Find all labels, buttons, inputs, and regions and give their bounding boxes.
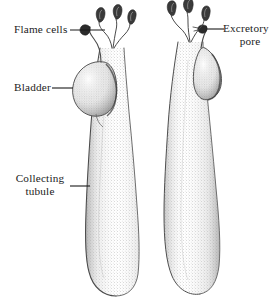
label-bladder: Bladder — [14, 81, 51, 94]
flame-cell-icon — [183, 0, 193, 13]
left-protonephridium — [73, 5, 139, 296]
label-collecting-tubule: Collecting tubule — [10, 172, 70, 198]
excretory-system-figure: Flame cells Bladder Collecting tubule Ex… — [0, 0, 279, 301]
flame-cell-icon — [96, 8, 105, 23]
flame-cell-icon — [167, 1, 176, 16]
label-excretory-pore-line1: Excretory — [223, 22, 269, 34]
label-collecting-tubule-line1: Collecting — [16, 172, 65, 184]
flame-cell-icon — [202, 6, 210, 21]
bladder-right — [193, 48, 221, 100]
label-excretory-pore: Excretory pore — [223, 22, 277, 48]
flame-cell-icon — [128, 10, 136, 24]
label-excretory-pore-line2: pore — [223, 35, 277, 48]
label-flame-cells: Flame cells — [14, 23, 67, 36]
label-collecting-tubule-line2: tubule — [25, 185, 54, 197]
flame-cell-cluster-left — [96, 5, 136, 48]
flame-cell-icon — [113, 5, 122, 20]
right-protonephridium — [164, 0, 222, 294]
